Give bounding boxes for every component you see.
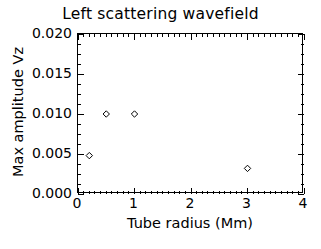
x-tick-label: 4 [291, 196, 315, 210]
plot-canvas [78, 34, 304, 194]
x-axis-title: Tube radius (Mm) [77, 215, 303, 231]
plot-area [77, 33, 303, 193]
data-markers [86, 111, 251, 172]
data-point-marker [103, 111, 109, 117]
chart-title: Left scattering wavefield [0, 5, 321, 23]
data-point-marker [131, 111, 137, 117]
data-point-marker [86, 152, 92, 158]
x-tick-label: 2 [178, 196, 202, 210]
chart-figure: Left scattering wavefield 0.0000.0050.01… [0, 0, 321, 249]
axis-ticks [78, 34, 304, 194]
data-point-marker [244, 165, 250, 171]
x-tick-label: 1 [122, 196, 146, 210]
x-tick-label: 0 [65, 196, 89, 210]
x-tick-label: 3 [235, 196, 259, 210]
y-axis-title: Max amplitude Vz [10, 27, 26, 197]
